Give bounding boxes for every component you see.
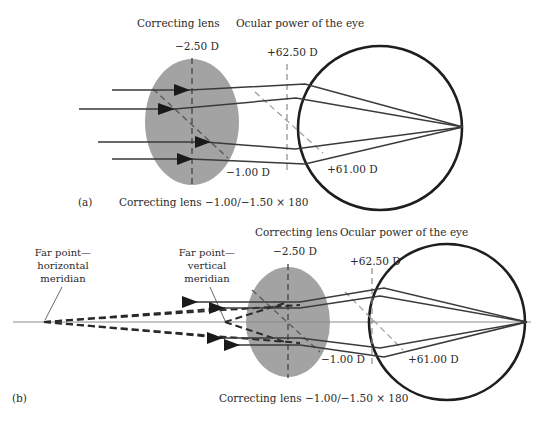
panel-b-lens-vertical-power: −2.50 D [273, 245, 317, 257]
far-point-horizontal-pointer [45, 287, 62, 320]
svg-text:meridian: meridian [40, 273, 86, 284]
svg-text:meridian: meridian [184, 273, 230, 284]
svg-text:horizontal: horizontal [37, 260, 88, 271]
panel-b-eye-power-oblique: +61.00 D [408, 353, 459, 365]
rays-a [79, 84, 463, 164]
panel-b-lens-title: Correcting lens [255, 226, 338, 238]
panel-b-lens-oblique-power: −1.00 D [321, 353, 365, 365]
far-point-vertical-label: Far point— vertical meridian [179, 247, 235, 284]
panel-a-lens-oblique-power: −1.00 D [226, 166, 270, 178]
panel-b-id-label: (b) [12, 392, 27, 404]
panel-a: Correcting lens Ocular power of the eye … [78, 17, 463, 210]
panel-b-eye-title: Ocular power of the eye [340, 226, 468, 238]
panel-a-id-label: (a) [78, 196, 92, 208]
panel-a-eye-title: Ocular power of the eye [236, 17, 364, 29]
panel-a-caption: Correcting lens −1.00/−1.50 × 180 [119, 196, 308, 208]
svg-text:Far point—: Far point— [35, 247, 91, 258]
panel-a-eye-power-oblique: +61.00 D [327, 163, 378, 175]
eye-outline [298, 46, 462, 210]
svg-text:vertical: vertical [187, 260, 226, 271]
panel-a-lens-title: Correcting lens [137, 17, 220, 29]
svg-text:Far point—: Far point— [179, 247, 235, 258]
panel-a-eye-power-vertical: +62.50 D [267, 46, 318, 58]
far-point-horizontal-label: Far point— horizontal meridian [35, 247, 91, 284]
panel-a-lens-vertical-power: −2.50 D [175, 40, 219, 52]
panel-b-caption: Correcting lens −1.00/−1.50 × 180 [219, 392, 408, 404]
optics-diagram: Correcting lens Ocular power of the eye … [0, 0, 544, 422]
panel-b: Correcting lens Ocular power of the eye … [12, 226, 531, 404]
